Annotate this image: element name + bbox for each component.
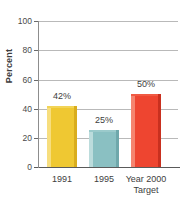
value-label-1991: 42% <box>40 92 84 101</box>
y-tick-label-40: 40 <box>6 105 32 114</box>
y-axis-title: Percent <box>4 31 14 101</box>
bar-1991-shadow <box>74 106 77 167</box>
plot-area: 100 80 60 40 20 0 42% 25% 50% <box>0 0 182 207</box>
bar-year-2000-target-fill <box>131 94 161 167</box>
bar-chart: 100 80 60 40 20 0 42% 25% 50% <box>0 0 182 207</box>
category-label-1991: 1991 <box>38 174 86 185</box>
bar-1995-highlight <box>89 130 93 167</box>
bar-year-2000-target-top <box>131 94 161 96</box>
gridline-100 <box>38 21 178 22</box>
y-axis-line <box>38 21 39 168</box>
category-label-year-2000-target: Year 2000 Target <box>118 174 174 196</box>
y-tick-label-0: 0 <box>6 163 32 172</box>
value-label-1995: 25% <box>82 116 126 125</box>
bar-1995-shadow <box>116 130 119 167</box>
axis-baseline <box>34 167 180 168</box>
bar-1995-fill <box>89 130 119 167</box>
bar-1991[interactable] <box>47 106 77 167</box>
value-label-year-2000-target: 50% <box>124 80 168 89</box>
bar-1995[interactable] <box>89 130 119 167</box>
bar-1991-highlight <box>47 106 51 167</box>
bar-year-2000-target[interactable] <box>131 94 161 167</box>
bar-1991-fill <box>47 106 77 167</box>
bar-year-2000-target-highlight <box>131 94 135 167</box>
gridline-80 <box>38 50 178 51</box>
bar-1995-top <box>89 130 119 132</box>
bar-1991-top <box>47 106 77 108</box>
y-tick-label-100: 100 <box>6 17 32 26</box>
y-tick-label-20: 20 <box>6 134 32 143</box>
bar-year-2000-target-shadow <box>158 94 161 167</box>
